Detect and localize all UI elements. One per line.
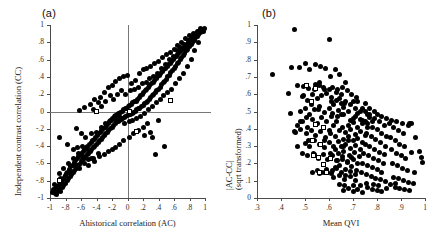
data-point-filled-circle <box>389 147 394 152</box>
panel-a-x-tick <box>143 198 144 201</box>
data-point-open-square <box>127 109 132 114</box>
data-point-filled-circle <box>77 166 82 171</box>
data-point-filled-circle <box>54 192 59 197</box>
data-point-filled-circle <box>370 165 375 170</box>
panel-b-x-tick-label: .8 <box>366 203 388 212</box>
panel-b-x-tick-label: .7 <box>342 203 364 212</box>
data-point-filled-circle <box>85 147 90 152</box>
panel-b-x-tick <box>425 198 426 201</box>
data-point-filled-circle <box>171 54 176 59</box>
data-point-filled-circle <box>409 150 414 155</box>
panel-a-x-tick <box>159 198 160 201</box>
data-point-filled-circle <box>169 87 174 92</box>
panel-b-x-axis-title: Mean QVI <box>257 218 425 228</box>
panel-b-x-tick-label: 1 <box>414 203 436 212</box>
figure-container: (a) Ahistorical correlation (AC) Indepen… <box>0 0 438 245</box>
panel-b-y-tick <box>254 94 257 95</box>
panel-b-y-tick-label: .5 <box>229 107 251 116</box>
data-point-open-square <box>134 129 139 134</box>
panel-b-y-tick <box>254 146 257 147</box>
data-point-filled-circle <box>162 144 167 149</box>
panel-a-y-tick-label: 1 <box>22 20 44 29</box>
data-point-filled-circle <box>353 143 358 148</box>
panel-a-y-tick-label: -.2 <box>22 124 44 133</box>
data-point-filled-circle <box>382 123 387 128</box>
panel-b-y-tick <box>254 112 257 113</box>
panel-b-y-tick-label: .1 <box>229 176 251 185</box>
data-point-filled-circle <box>363 119 368 124</box>
data-point-filled-circle <box>305 153 310 158</box>
panel-b-y-tick-label: .7 <box>229 72 251 81</box>
data-point-filled-circle <box>327 37 332 42</box>
panel-a-label: (a) <box>42 7 56 19</box>
panel-b-x-tick <box>281 198 282 201</box>
data-point-filled-circle <box>316 107 321 112</box>
data-point-filled-circle <box>94 130 99 135</box>
data-point-filled-circle <box>388 182 393 187</box>
panel-b-y-tick-label: 0 <box>229 193 251 202</box>
data-point-open-square <box>168 98 173 103</box>
panel-b-x-tick-label: .3 <box>246 203 268 212</box>
panel-b-y-tick-label: 1 <box>229 20 251 29</box>
data-point-filled-circle <box>376 183 381 188</box>
panel-b-y-tick <box>254 129 257 130</box>
data-point-filled-circle <box>323 66 328 71</box>
data-point-filled-circle <box>360 106 365 111</box>
data-point-filled-circle <box>304 115 309 120</box>
data-point-filled-circle <box>364 181 369 186</box>
data-point-filled-circle <box>103 99 108 104</box>
data-point-filled-circle <box>185 64 190 69</box>
data-point-open-square <box>94 109 99 114</box>
panel-b-x-tick-label: .6 <box>318 203 340 212</box>
data-point-open-square <box>328 156 333 161</box>
panel-a-y-tick <box>47 42 50 43</box>
panel-b: (b) Mean QVI |AC-CC| (sqrt transformed) … <box>219 0 438 245</box>
data-point-filled-circle <box>346 134 351 139</box>
data-point-open-square <box>321 162 326 167</box>
data-point-filled-circle <box>298 127 303 132</box>
data-point-filled-circle <box>321 85 326 90</box>
data-point-filled-circle <box>71 156 76 161</box>
data-point-filled-circle <box>125 73 130 78</box>
panel-a-y-tick-label: -.4 <box>22 141 44 150</box>
panel-a-y-tick <box>47 129 50 130</box>
data-point-open-square <box>304 83 309 88</box>
data-point-filled-circle <box>110 83 115 88</box>
data-point-filled-circle <box>307 67 312 72</box>
panel-a-y-tick-label: -.6 <box>22 158 44 167</box>
panel-a-x-tick <box>128 198 129 201</box>
panel-b-y-axis <box>257 25 258 199</box>
data-point-filled-circle <box>394 151 399 156</box>
data-point-filled-circle <box>327 128 332 133</box>
panel-b-x-tick-label: .9 <box>390 203 412 212</box>
data-point-filled-circle <box>292 129 297 134</box>
data-point-filled-circle <box>65 142 70 147</box>
data-point-filled-circle <box>364 172 369 177</box>
data-point-filled-circle <box>137 71 142 76</box>
data-point-filled-circle <box>342 183 347 188</box>
panel-b-x-tick <box>257 198 258 201</box>
panel-a-y-tick <box>47 60 50 61</box>
panel-b-y-tick-label: .2 <box>229 158 251 167</box>
data-point-open-square <box>313 86 318 91</box>
data-point-open-square <box>318 142 323 147</box>
data-point-filled-circle <box>195 29 200 34</box>
panel-a-x-tick <box>190 198 191 201</box>
data-point-filled-circle <box>340 157 345 162</box>
data-point-filled-circle <box>86 163 91 168</box>
panel-a-y-tick-label: -.8 <box>22 176 44 185</box>
panel-b-x-tick <box>305 198 306 201</box>
panel-b-y-tick <box>254 60 257 61</box>
data-point-filled-circle <box>393 181 398 186</box>
panel-b-x-tick-label: .5 <box>294 203 316 212</box>
data-point-filled-circle <box>66 161 71 166</box>
data-point-filled-circle <box>406 180 411 185</box>
panel-a-x-tick <box>97 198 98 201</box>
data-point-filled-circle <box>405 168 410 173</box>
data-point-filled-circle <box>411 181 416 186</box>
data-point-filled-circle <box>102 90 107 95</box>
panel-a-x-axis-title: Ahistorical correlation (AC) <box>50 218 205 228</box>
panel-a-x-tick <box>174 198 175 201</box>
panel-a-y-tick <box>47 163 50 164</box>
data-point-filled-circle <box>51 187 56 192</box>
